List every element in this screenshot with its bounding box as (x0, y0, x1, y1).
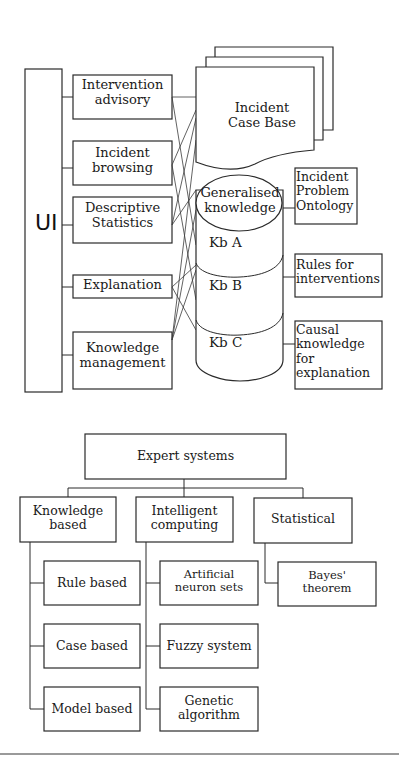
leaf-label-case-based: Case based (44, 639, 140, 653)
category-label-statistical: Statistical (254, 512, 352, 526)
kb-c-label: Kb C (209, 335, 242, 351)
leaf-label-bayes-theorem: Bayes' theorem (298, 569, 356, 595)
bottom-divider (0, 753, 399, 755)
kb-a-label: Kb A (209, 235, 242, 251)
generalised-knowledge-label: Generalised knowledge (200, 186, 280, 216)
leaf-label-model-based: Model based (44, 702, 140, 716)
leaf-label-artificial-neuron-sets: Artificial neuron sets (168, 568, 250, 594)
leaf-label-rule-based: Rule based (44, 576, 140, 590)
module-label-intervention-advisory: Intervention advisory (73, 78, 172, 108)
ui-label: UI (33, 210, 60, 235)
leaf-label-fuzzy-system: Fuzzy system (160, 639, 258, 653)
ontology-label: Incident Problem Ontology (296, 170, 358, 213)
root-label: Expert systems (85, 449, 286, 463)
module-label-knowledge-management: Knowledge management (73, 341, 172, 371)
kb-b-label: Kb B (209, 278, 242, 294)
leaf-label-genetic-algorithm: Genetic algorithm (175, 694, 243, 723)
module-label-incident-browsing: Incident browsing (73, 146, 172, 176)
rules-label: Rules for interventions (296, 258, 382, 287)
causal-knowledge-label: Causal knowledge for explanation (296, 323, 376, 381)
module-label-descriptive-statistics: Descriptive Statistics (73, 201, 172, 231)
category-label-intelligent-computing: Intelligent computing (138, 504, 231, 533)
category-label-knowledge-based: Knowledge based (22, 504, 114, 533)
case-base-label: Incident Case Base (222, 101, 302, 131)
module-label-explanation: Explanation (73, 278, 172, 293)
